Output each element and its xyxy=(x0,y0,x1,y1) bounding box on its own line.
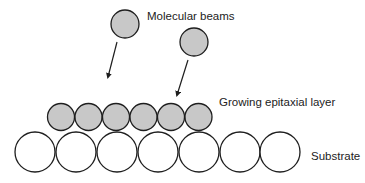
substrate-atom xyxy=(56,132,96,172)
beam-arrows xyxy=(108,42,188,95)
substrate-atom xyxy=(15,132,55,172)
epilayer-atom xyxy=(103,104,130,131)
beam-atom xyxy=(111,10,139,38)
label-substrate: Substrate xyxy=(311,150,360,162)
substrate-atom xyxy=(179,132,219,172)
epilayer-atom xyxy=(185,104,212,131)
epilayer-atom xyxy=(48,104,75,131)
substrate-atom xyxy=(220,132,260,172)
substrate-atoms xyxy=(15,132,300,172)
substrate-atom xyxy=(260,132,300,172)
mbe-diagram: Molecular beams Growing epitaxial layer … xyxy=(0,0,365,183)
epitaxial-layer-atoms xyxy=(48,104,213,131)
substrate-atom xyxy=(138,132,178,172)
beam-atom xyxy=(180,28,208,56)
arrow-icon xyxy=(108,42,117,77)
epilayer-atom xyxy=(75,104,102,131)
epilayer-atom xyxy=(158,104,185,131)
arrow-icon xyxy=(177,60,188,95)
substrate-atom xyxy=(97,132,137,172)
epilayer-atom xyxy=(130,104,157,131)
label-molecular-beams: Molecular beams xyxy=(147,10,235,22)
label-growing-epitaxial-layer: Growing epitaxial layer xyxy=(219,96,336,108)
